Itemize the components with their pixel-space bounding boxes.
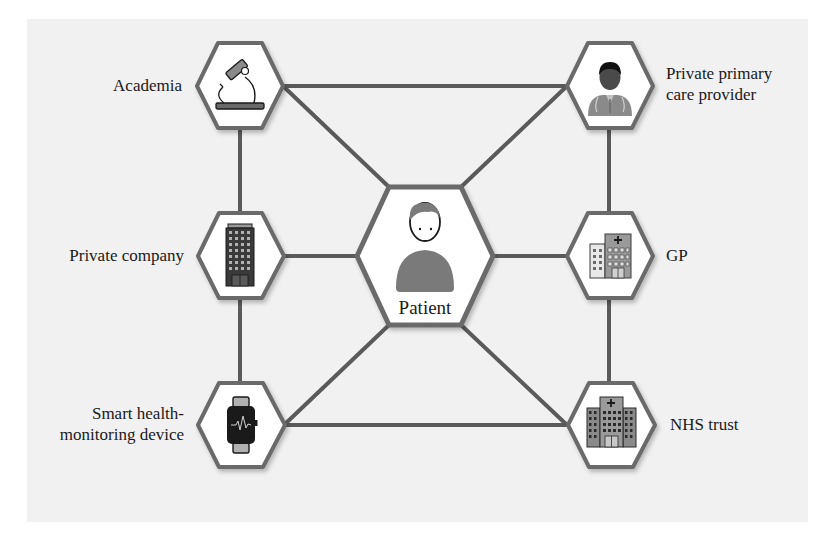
private-company-label: Private company bbox=[30, 245, 184, 266]
private-company-node bbox=[198, 213, 284, 298]
private-primary-care-label-line1: Private primary bbox=[666, 63, 826, 84]
patient-label: Patient bbox=[365, 297, 485, 319]
edge-smart-device-patient bbox=[284, 325, 389, 425]
edge-private-primary-care-patient bbox=[461, 86, 567, 187]
academia-node bbox=[197, 43, 283, 128]
private-primary-care-label: Private primary care provider bbox=[666, 63, 826, 105]
edge-academia-patient bbox=[283, 86, 389, 187]
office-building-icon bbox=[226, 224, 254, 286]
smart-device-label: Smart health- monitoring device bbox=[30, 403, 184, 445]
edge-nhs-trust-patient bbox=[461, 325, 567, 425]
gp-label: GP bbox=[666, 245, 746, 266]
smart-device-node bbox=[198, 383, 285, 467]
nhs-trust-label: NHS trust bbox=[670, 414, 790, 435]
nhs-trust-node bbox=[568, 383, 655, 467]
private-primary-care-label-line2: care provider bbox=[666, 84, 826, 105]
private-primary-care-node bbox=[567, 43, 653, 128]
smart-device-label-line1: Smart health- bbox=[30, 403, 184, 424]
gp-node bbox=[567, 213, 653, 298]
smart-device-label-line2: monitoring device bbox=[30, 424, 184, 445]
academia-label: Academia bbox=[60, 75, 182, 96]
